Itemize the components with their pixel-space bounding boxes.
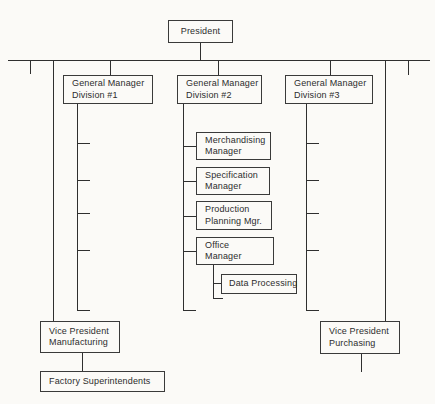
node-merchandising-manager: Merchandising Manager	[196, 132, 271, 160]
node-vice-president-manufacturing: Vice President Manufacturing	[40, 321, 120, 353]
node-production-planning-mgr: Production Planning Mgr.	[196, 201, 272, 230]
connector-division1-spine	[77, 103, 78, 311]
division1-tick	[77, 310, 90, 311]
connector-president-drop	[200, 43, 201, 60]
node-label: Vice President	[49, 326, 119, 338]
division3-tick	[306, 310, 319, 311]
node-label: Merchandising	[205, 135, 270, 147]
node-label: Planning Mgr.	[205, 216, 271, 228]
node-label: Manager	[205, 146, 270, 158]
office-spine-end-tick	[213, 298, 223, 299]
connector-branch-merchandising	[183, 146, 196, 147]
division1-tick	[77, 180, 90, 181]
node-label: Production	[205, 204, 271, 216]
node-label: Division #1	[72, 90, 152, 102]
connector-drop-vp-manufacturing	[53, 60, 54, 322]
connector-vpmfg-factory	[82, 353, 83, 371]
node-label: Specification	[205, 170, 269, 182]
node-label: General Manager	[72, 78, 152, 90]
node-label: General Manager	[294, 78, 372, 90]
connector-branch-specification	[183, 181, 196, 182]
org-chart: President General Manager Division #1 Ge…	[0, 0, 435, 404]
division3-tick	[306, 250, 319, 251]
node-general-manager-division-3: General Manager Division #3	[285, 75, 373, 104]
connector-drop-gm3	[330, 60, 331, 75]
connector-office-spine	[213, 265, 214, 299]
node-label: Factory Superintendents	[49, 376, 164, 388]
node-label: General Manager	[186, 78, 261, 90]
node-label: Division #2	[186, 90, 261, 102]
connector-division2-spine	[183, 103, 184, 311]
node-office-manager: Office Manager	[196, 237, 274, 265]
node-label: President	[181, 26, 220, 38]
division2-end-tick	[183, 310, 196, 311]
node-general-manager-division-1: General Manager Division #1	[63, 75, 153, 104]
node-label: Manufacturing	[49, 337, 119, 349]
connector-drop-gm2	[218, 60, 219, 75]
connector-trunk-left-stub	[30, 60, 31, 74]
connector-branch-office	[183, 251, 196, 252]
node-president: President	[168, 20, 233, 43]
division3-tick	[306, 180, 319, 181]
node-vice-president-purchasing: Vice President Purchasing	[320, 321, 400, 354]
node-data-processing: Data Processing	[221, 274, 297, 294]
node-label: Office	[205, 240, 273, 252]
node-factory-superintendents: Factory Superintendents	[40, 371, 165, 392]
node-label: Purchasing	[329, 338, 399, 350]
division3-tick	[306, 213, 319, 214]
division1-tick	[77, 143, 90, 144]
node-label: Manager	[205, 181, 269, 193]
division1-tick	[77, 213, 90, 214]
division1-tick	[77, 250, 90, 251]
connector-division3-spine	[306, 103, 307, 311]
node-label: Data Processing	[229, 278, 296, 290]
node-label: Vice President	[329, 326, 399, 338]
division3-tick	[306, 143, 319, 144]
connector-branch-production	[183, 216, 196, 217]
connector-trunk-right-stub	[408, 60, 409, 75]
node-label: Manager	[205, 251, 273, 263]
connector-drop-vp-purchasing	[385, 60, 386, 322]
node-general-manager-division-2: General Manager Division #2	[177, 75, 262, 104]
connector-trunk	[8, 60, 430, 61]
node-label: Division #3	[294, 90, 372, 102]
node-specification-manager: Specification Manager	[196, 167, 270, 195]
connector-vppur-bottom-stub	[361, 354, 362, 372]
connector-drop-gm1	[110, 60, 111, 75]
